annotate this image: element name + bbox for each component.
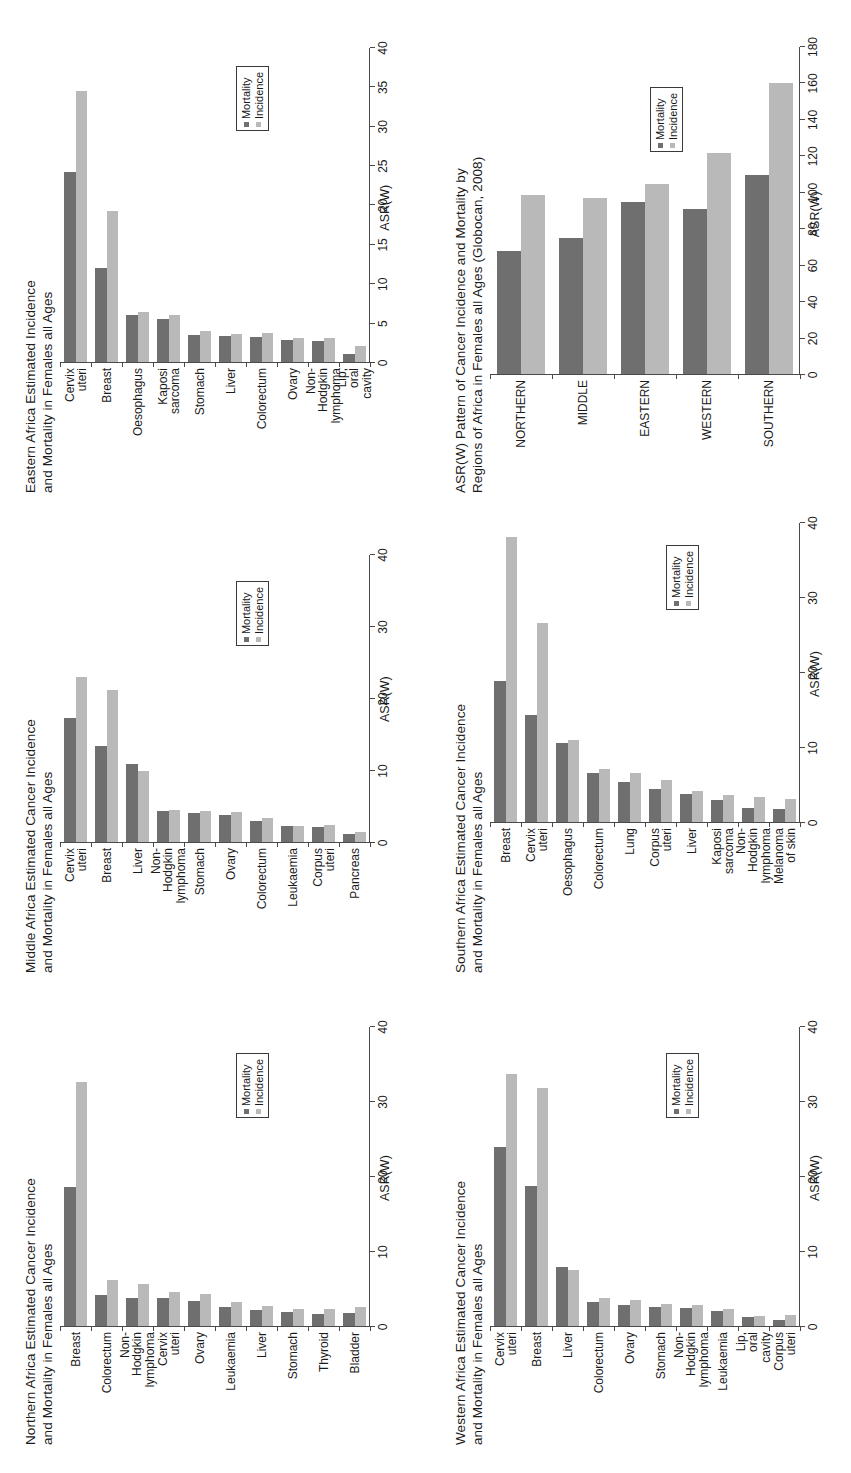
bars xyxy=(583,1027,614,1327)
bar-incidence xyxy=(568,1270,580,1327)
axis-tick-label: 180 xyxy=(806,37,820,57)
legend-swatch-incidence-icon xyxy=(686,1109,691,1114)
category-label: Stomach xyxy=(193,848,206,895)
bar-incidence xyxy=(231,812,243,843)
legend-item-incidence: Incidence xyxy=(683,1059,696,1114)
bars xyxy=(122,1027,153,1327)
category-label: Oesophagus xyxy=(561,828,574,896)
legend-swatch-mortality-icon xyxy=(244,637,249,642)
axis-tick-label: 40 xyxy=(806,516,820,529)
axis-title-southern: ASR(W) xyxy=(808,651,822,697)
bar-incidence xyxy=(355,1308,367,1328)
axis-title-eastern: ASR(W) xyxy=(378,185,392,231)
category-tick xyxy=(490,822,491,827)
bars xyxy=(277,1027,308,1327)
legend-swatch-incidence-icon xyxy=(256,122,261,127)
bar-incidence xyxy=(262,333,274,363)
category-tick xyxy=(769,822,770,827)
category-label: Stomach xyxy=(193,368,206,415)
category-tick xyxy=(308,842,309,847)
category-label: Liver xyxy=(224,368,237,394)
category-label: Cervix uteri xyxy=(63,368,88,402)
category-tick xyxy=(614,1326,615,1331)
bar-incidence xyxy=(355,346,367,363)
bar-group: Cervix uteri xyxy=(521,523,552,823)
category-tick xyxy=(707,822,708,827)
bars xyxy=(552,1027,583,1327)
bar-incidence xyxy=(293,1309,305,1327)
axis-tick xyxy=(370,1176,375,1177)
bars xyxy=(308,48,339,363)
axis-tick-label: 10 xyxy=(376,764,390,777)
bar-group: Stomach xyxy=(184,555,215,843)
bar-group: Ovary xyxy=(277,48,308,363)
bar-group: Melanoma of skin xyxy=(769,523,800,823)
axis-tick xyxy=(370,47,375,48)
category-label: Kaposi sarcoma xyxy=(710,828,735,874)
bar-mortality xyxy=(494,1147,506,1327)
bars xyxy=(277,555,308,843)
chart-title-regions: ASR(W) Pattern of Cancer Incidence and M… xyxy=(452,33,486,493)
bar-incidence xyxy=(138,771,150,843)
bar-incidence xyxy=(231,1302,243,1327)
axis-tick-label: 40 xyxy=(376,548,390,561)
legend-item-mortality: Mortality xyxy=(670,1059,683,1114)
category-tick xyxy=(645,822,646,827)
bar-group: Stomach xyxy=(277,1027,308,1327)
bar-mortality xyxy=(157,319,169,363)
value-axis-middle: 010203040 xyxy=(369,555,370,843)
bar-incidence xyxy=(138,312,150,363)
axis-tick xyxy=(370,244,375,245)
chart-panel-middle: Middle Africa Estimated Cancer Incidence… xyxy=(22,543,402,973)
bar-group: Leukaemia xyxy=(277,555,308,843)
bars xyxy=(184,1027,215,1327)
bar-mortality xyxy=(219,815,231,843)
bars xyxy=(60,555,91,843)
bar-group: Thyroid xyxy=(308,1027,339,1327)
plot-area-regions: NORTHERNMIDDLEEASTERNWESTERNSOUTHERN0204… xyxy=(490,47,822,375)
category-tick xyxy=(246,1326,247,1331)
category-label: Kaposi sarcoma xyxy=(156,368,181,414)
bars xyxy=(277,48,308,363)
chart-panel-eastern: Eastern Africa Estimated Incidence and M… xyxy=(22,33,402,493)
category-label: Non-Hodgkin lymphoma xyxy=(673,1332,711,1387)
axis-tick-label: 0 xyxy=(376,360,390,367)
axis-tick-label: 10 xyxy=(376,1245,390,1258)
axis-tick xyxy=(800,1251,805,1252)
axis-tick xyxy=(800,82,805,83)
category-tick xyxy=(738,822,739,827)
category-label: Pancreas xyxy=(348,848,361,899)
bar-incidence xyxy=(107,690,119,843)
category-tick xyxy=(246,842,247,847)
category-label: Liver xyxy=(685,828,698,854)
bar-mortality xyxy=(683,209,707,375)
bar-group: Breast xyxy=(521,1027,552,1327)
bar-mortality xyxy=(250,1311,262,1328)
bars xyxy=(91,555,122,843)
category-tick xyxy=(60,842,61,847)
category-label: NORTHERN xyxy=(515,380,528,448)
chart-panel-regions: ASR(W) Pattern of Cancer Incidence and M… xyxy=(452,33,832,493)
category-label: Corpus uteri xyxy=(772,1332,797,1371)
category-tick xyxy=(676,1326,677,1331)
bars xyxy=(91,1027,122,1327)
category-label: SOUTHERN xyxy=(763,380,776,447)
chart-title-western: Western Africa Estimated Cancer Incidenc… xyxy=(452,1015,486,1445)
category-tick xyxy=(521,1326,522,1331)
axis-tick-label: 15 xyxy=(376,238,390,251)
bar-incidence xyxy=(661,1305,673,1328)
bar-incidence xyxy=(692,792,704,824)
legend-item-incidence: Incidence xyxy=(683,551,696,606)
value-axis-southern: 010203040 xyxy=(799,523,800,823)
bar-incidence xyxy=(707,153,731,375)
bar-group: Ovary xyxy=(614,1027,645,1327)
category-tick xyxy=(339,362,340,367)
axis-tick-label: 160 xyxy=(806,73,820,93)
value-axis-regions: 020406080100120140160180 xyxy=(799,47,800,375)
bar-incidence xyxy=(200,1294,212,1327)
category-label: Colorectum xyxy=(592,828,605,889)
chart-panel-northern: Northern Africa Estimated Cancer Inciden… xyxy=(22,1015,402,1445)
axis-title-western: ASR(W) xyxy=(808,1155,822,1201)
bar-incidence xyxy=(200,331,212,363)
legend-item-mortality: Mortality xyxy=(670,551,683,606)
